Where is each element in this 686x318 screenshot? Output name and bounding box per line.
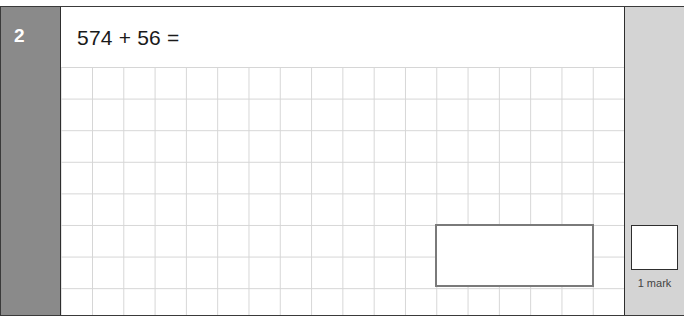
question-number-panel: 2 <box>1 7 61 315</box>
question-number: 2 <box>14 25 25 47</box>
question-text: 574 + 56 = <box>77 26 179 50</box>
mark-box[interactable] <box>631 225 678 270</box>
answer-box[interactable] <box>435 224 594 287</box>
question-card: 2 574 + 56 = 1 mark <box>0 6 684 316</box>
mark-label: 1 mark <box>625 277 684 289</box>
mark-panel: 1 mark <box>624 7 684 315</box>
